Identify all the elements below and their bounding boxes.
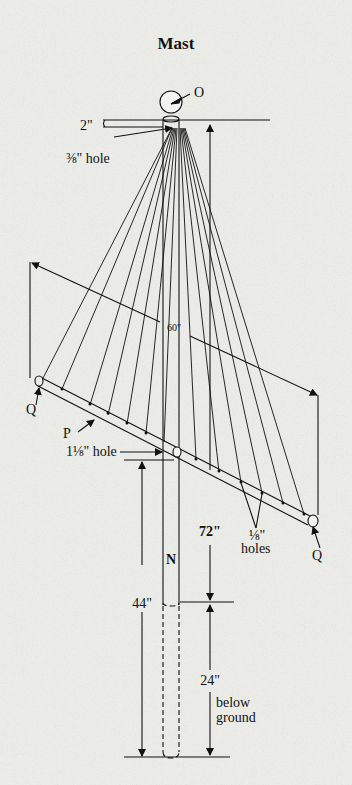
label-ground: ground: [216, 710, 256, 725]
mast-diagram: Mast O 2" ⅜" hole 60" Q P 1⅛" hole Q ⅛" …: [0, 0, 352, 785]
label-height-44: 44": [132, 596, 152, 611]
label-p: P: [63, 426, 71, 441]
label-pole-n: N: [166, 552, 176, 567]
diagram-title: Mast: [158, 34, 195, 53]
label-below: below: [216, 695, 251, 710]
label-span-60: 60": [167, 322, 181, 333]
label-top-hole: ⅜" hole: [66, 151, 110, 166]
label-depth-24: 24": [200, 673, 220, 688]
label-holes-word: holes: [241, 541, 271, 556]
label-q-left: Q: [26, 402, 36, 417]
label-ball-o: O: [194, 85, 204, 100]
label-top-dim: 2": [80, 118, 93, 133]
diagram-svg: Mast O 2" ⅜" hole 60" Q P 1⅛" hole Q ⅛" …: [0, 0, 352, 785]
label-q-right: Q: [312, 548, 322, 563]
label-center-hole: 1⅛" hole: [66, 444, 117, 459]
label-height-72: 72": [199, 524, 221, 539]
